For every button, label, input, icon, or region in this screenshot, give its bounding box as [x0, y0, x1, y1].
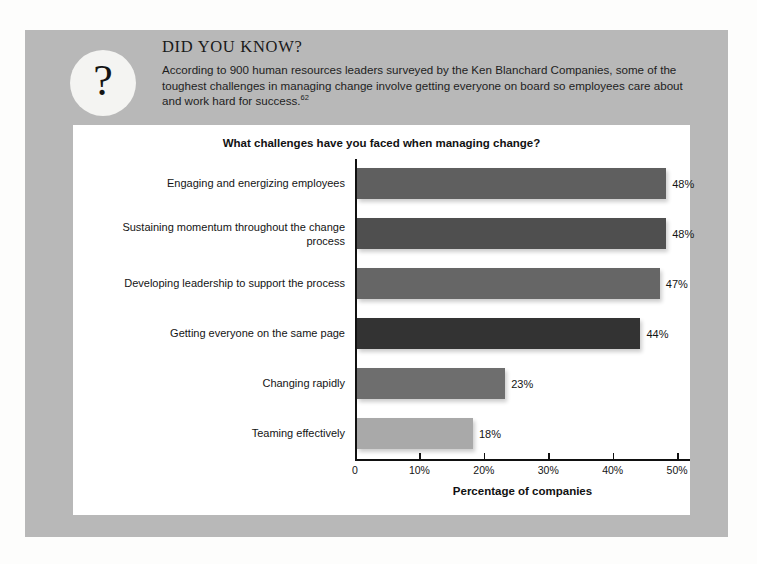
bar-category-label: Getting everyone on the same page	[95, 327, 345, 341]
x-axis-line	[355, 459, 690, 461]
x-axis-tick-label: 0	[352, 464, 358, 476]
bar-value-label: 48%	[672, 228, 694, 240]
bar-category-label: Sustaining momentum throughout the chang…	[95, 221, 345, 248]
callout-body: According to 900 human resources leaders…	[162, 62, 696, 109]
bar	[357, 218, 666, 249]
bar-row: Sustaining momentum throughout the chang…	[73, 209, 690, 259]
bar-category-label: Changing rapidly	[95, 377, 345, 391]
plot-area: Engaging and energizing employees48%Sust…	[73, 159, 690, 459]
bar-row: Changing rapidly23%	[73, 359, 690, 409]
page-root: ? DID YOU KNOW? According to 900 human r…	[0, 0, 757, 564]
bar-row: Developing leadership to support the pro…	[73, 259, 690, 309]
bar	[357, 368, 505, 399]
bar-row: Engaging and energizing employees48%	[73, 159, 690, 209]
bar-value-label: 48%	[672, 178, 694, 190]
bar	[357, 268, 660, 299]
did-you-know-callout: ? DID YOU KNOW? According to 900 human r…	[25, 30, 728, 537]
bar-value-label: 23%	[511, 378, 533, 390]
bar	[357, 168, 666, 199]
x-axis-tick	[419, 453, 421, 460]
x-axis-tick-label: 50%	[667, 464, 688, 476]
x-axis-tick	[355, 453, 357, 460]
question-mark-icon: ?	[70, 50, 136, 116]
bar-row: Getting everyone on the same page44%	[73, 309, 690, 359]
bar-category-label: Developing leadership to support the pro…	[95, 277, 345, 291]
x-axis-tick	[613, 453, 615, 460]
bar-value-label: 18%	[479, 428, 501, 440]
bar	[357, 318, 640, 349]
x-axis-tick	[484, 453, 486, 460]
x-axis-tick-label: 10%	[409, 464, 430, 476]
footnote-reference: 62	[301, 93, 309, 102]
x-axis-tick-label: 20%	[473, 464, 494, 476]
chart-panel: What challenges have you faced when mana…	[73, 125, 690, 515]
callout-title: DID YOU KNOW?	[162, 37, 707, 57]
callout-body-text: According to 900 human resources leaders…	[162, 63, 683, 107]
callout-text-block: DID YOU KNOW? According to 900 human res…	[162, 37, 707, 109]
bar-row: Teaming effectively18%	[73, 409, 690, 459]
bar-category-label: Engaging and energizing employees	[95, 177, 345, 191]
bar	[357, 418, 473, 449]
chart-title: What challenges have you faced when mana…	[73, 137, 690, 149]
x-axis-tick-label: 40%	[602, 464, 623, 476]
bar-value-label: 47%	[666, 278, 688, 290]
x-axis-tick	[548, 453, 550, 460]
question-mark-glyph: ?	[93, 59, 113, 103]
x-axis-title: Percentage of companies	[355, 485, 690, 497]
x-axis-tick-label: 30%	[538, 464, 559, 476]
x-axis-tick	[677, 453, 679, 460]
bar-category-label: Teaming effectively	[95, 427, 345, 441]
bar-value-label: 44%	[646, 328, 668, 340]
